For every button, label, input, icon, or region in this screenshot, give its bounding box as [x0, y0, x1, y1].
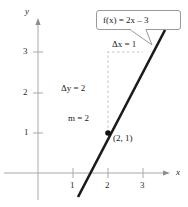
- y-axis-arrowhead: [35, 18, 40, 25]
- x-tick-label-2: 2: [105, 181, 110, 190]
- x-axis-arrowhead: [163, 170, 170, 175]
- point-marker-2-1: [105, 130, 111, 136]
- x-tick-label-3: 3: [140, 181, 145, 190]
- linear-function-graph-figure: f(x) = 2x – 3 y x 3 2 1 1 2 3 Δx = 1 Δy …: [0, 0, 188, 207]
- y-tick-label-1: 1: [24, 128, 29, 137]
- delta-y-label: Δy = 2: [61, 84, 85, 93]
- point-label: (2, 1): [113, 134, 133, 143]
- function-line: [78, 30, 165, 197]
- delta-x-label: Δx = 1: [112, 40, 136, 49]
- y-axis-label: y: [25, 7, 29, 16]
- x-axis-label: x: [176, 168, 180, 177]
- callout-label: f(x) = 2x – 3: [103, 16, 149, 25]
- slope-label: m = 2: [68, 114, 89, 123]
- x-tick-label-1: 1: [70, 181, 75, 190]
- graph-canvas: [0, 0, 188, 207]
- y-tick-label-2: 2: [23, 88, 28, 97]
- y-tick-label-3: 3: [23, 47, 28, 56]
